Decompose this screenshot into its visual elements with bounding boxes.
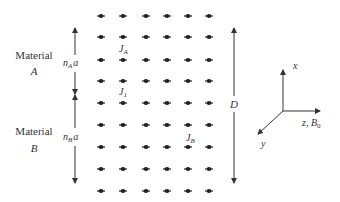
spin-dot [205, 145, 213, 149]
coupling-jb-label: JB [186, 132, 195, 145]
coupling-j1-label: J1 [119, 86, 127, 99]
spin-dot [142, 123, 150, 127]
spin-dot [142, 35, 150, 39]
lattice-diagram: Material A Material B nAa nBa JA J1 JB D… [0, 0, 340, 202]
spin-dot [142, 101, 150, 105]
spin-dot [97, 101, 105, 105]
spin-dot [97, 167, 105, 171]
spin-dot [184, 145, 192, 149]
spin-dot [205, 167, 213, 171]
spin-dot [184, 14, 192, 18]
spin-dot [184, 123, 192, 127]
spin-dot [119, 189, 127, 193]
spin-lattice [97, 14, 213, 193]
spin-dot [97, 79, 105, 83]
spin-dot [142, 58, 150, 62]
spin-dot [119, 35, 127, 39]
spin-dot [119, 79, 127, 83]
spin-dot [119, 167, 127, 171]
material-b-letter: B [31, 142, 38, 154]
spin-dot [142, 145, 150, 149]
spin-dot [205, 58, 213, 62]
spin-dot [119, 145, 127, 149]
spin-dot [97, 14, 105, 18]
spin-dot [184, 189, 192, 193]
y-axis-arrow [258, 111, 283, 134]
spin-dot [97, 35, 105, 39]
material-a-word: Material [15, 49, 52, 61]
spin-dot [163, 167, 171, 171]
spin-dot [163, 101, 171, 105]
spin-dot [97, 189, 105, 193]
thickness-a-label: nAa [63, 57, 78, 70]
spin-dot [205, 123, 213, 127]
spin-dot [205, 189, 213, 193]
spin-dot [184, 35, 192, 39]
spin-dot [142, 79, 150, 83]
spin-dot [119, 123, 127, 127]
spin-dot [163, 58, 171, 62]
spin-dot [163, 189, 171, 193]
spin-dot [184, 79, 192, 83]
spin-dot [163, 35, 171, 39]
spin-dot [142, 14, 150, 18]
material-b-label: Material B [15, 125, 52, 154]
spin-dot [97, 145, 105, 149]
spin-dot [205, 79, 213, 83]
thickness-b-label: nBa [63, 131, 78, 144]
spin-dot [205, 14, 213, 18]
spin-dot [97, 123, 105, 127]
total-thickness-label: D [229, 98, 238, 110]
spin-dot [119, 14, 127, 18]
material-a-label: Material A [15, 49, 52, 77]
y-axis-label: y [260, 138, 266, 149]
spin-dot [163, 79, 171, 83]
x-axis-label: x [292, 60, 298, 71]
spin-dot [184, 101, 192, 105]
z-axis-label: z, B0 [301, 117, 321, 130]
spin-dot [205, 101, 213, 105]
spin-dot [119, 101, 127, 105]
spin-dot [184, 58, 192, 62]
spin-dot [142, 167, 150, 171]
spin-dot [163, 145, 171, 149]
spin-dot [163, 14, 171, 18]
coupling-ja-label: JA [119, 43, 128, 56]
spin-dot [184, 167, 192, 171]
spin-dot [163, 123, 171, 127]
spin-dot [142, 189, 150, 193]
material-b-word: Material [15, 125, 52, 137]
spin-dot [119, 58, 127, 62]
material-a-letter: A [30, 65, 38, 77]
spin-dot [97, 58, 105, 62]
spin-dot [205, 35, 213, 39]
